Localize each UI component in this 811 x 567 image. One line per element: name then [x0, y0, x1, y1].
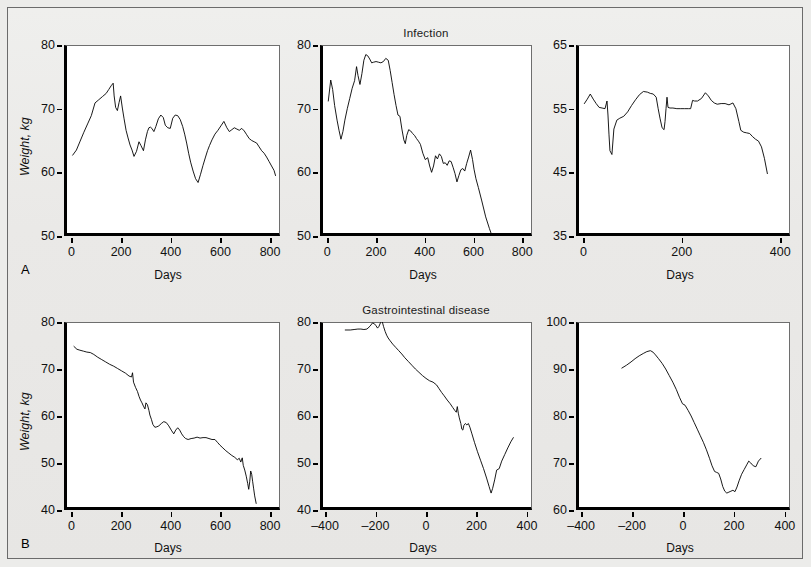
row-label-b: B	[21, 536, 30, 551]
figure-border	[7, 7, 803, 559]
row-label-a: A	[21, 262, 30, 277]
figure-root: A B 020040060080050607080DaysWeight, kgI…	[0, 0, 811, 567]
